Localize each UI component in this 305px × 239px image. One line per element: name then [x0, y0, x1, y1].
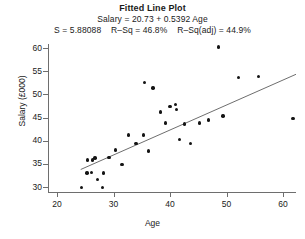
- data-point: [102, 171, 105, 174]
- plot-area: 30354045505560 2030405060 Salary (£000) …: [0, 0, 305, 239]
- data-point: [80, 186, 83, 189]
- data-point: [147, 149, 150, 152]
- data-point: [93, 156, 96, 159]
- x-tick-mark: [114, 192, 115, 197]
- y-tick-mark: [43, 141, 48, 142]
- y-axis-line: [48, 44, 49, 192]
- data-point: [178, 138, 181, 141]
- y-tick-label: 30: [16, 183, 42, 192]
- x-tick-mark: [57, 192, 58, 197]
- data-point: [142, 133, 145, 136]
- data-point: [159, 110, 162, 113]
- x-tick-mark: [227, 192, 228, 197]
- data-point: [257, 75, 260, 78]
- x-axis-line: [48, 192, 296, 193]
- data-point: [85, 171, 88, 174]
- data-point: [120, 163, 123, 166]
- data-point: [189, 142, 192, 145]
- data-point: [175, 108, 178, 111]
- data-point: [107, 156, 110, 159]
- data-point: [291, 117, 294, 120]
- data-point: [114, 148, 117, 151]
- x-tick-mark: [170, 192, 171, 197]
- y-tick-mark: [43, 71, 48, 72]
- x-axis-title: Age: [0, 218, 305, 228]
- data-point: [183, 122, 186, 125]
- data-point: [237, 76, 240, 79]
- x-tick-label: 30: [101, 200, 127, 209]
- x-tick-label: 60: [270, 200, 296, 209]
- y-tick-mark: [43, 94, 48, 95]
- data-point: [96, 178, 99, 181]
- x-tick-label: 40: [157, 200, 183, 209]
- data-point: [86, 158, 89, 161]
- y-tick-mark: [43, 118, 48, 119]
- data-point: [143, 81, 146, 84]
- data-point: [127, 133, 130, 136]
- data-point: [164, 121, 167, 124]
- x-tick-label: 50: [214, 200, 240, 209]
- y-tick-mark: [43, 187, 48, 188]
- data-point: [168, 105, 171, 108]
- data-point: [101, 186, 104, 189]
- data-point: [90, 171, 93, 174]
- data-point: [221, 114, 224, 117]
- x-tick-mark: [283, 192, 284, 197]
- y-tick-mark: [43, 48, 48, 49]
- data-point: [134, 142, 137, 145]
- data-point: [198, 121, 201, 124]
- fitted-line-plot-figure: Fitted Line Plot Salary = 20.73 + 0.5392…: [0, 0, 305, 239]
- data-point: [174, 103, 177, 106]
- x-tick-label: 20: [44, 200, 70, 209]
- y-axis-title: Salary (£000): [17, 41, 27, 161]
- data-point: [217, 45, 220, 48]
- y-tick-mark: [43, 164, 48, 165]
- data-point: [207, 118, 210, 121]
- data-point: [151, 86, 154, 89]
